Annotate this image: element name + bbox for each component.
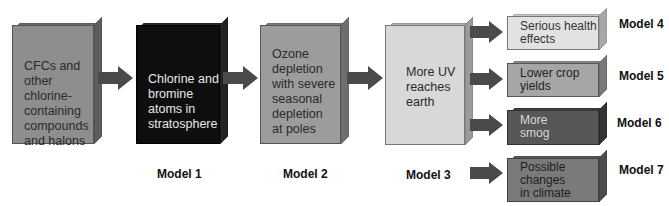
box-side-face [599, 102, 607, 145]
arrow-icon [223, 66, 259, 94]
box-chlorine: Chlorine andbromineatoms instratosphere [136, 17, 228, 144]
arrow-icon [347, 66, 384, 94]
box-side-face [599, 150, 607, 202]
box-top-face [385, 17, 473, 25]
box-text: CFCs andotherchlorine-containingcompound… [24, 59, 89, 149]
box-side-face [599, 55, 607, 97]
box-health: Serious healtheffects [507, 8, 607, 50]
model-1-label: Model 1 [157, 167, 202, 181]
box-text: Chlorine andbromineatoms instratosphere [148, 72, 219, 132]
box-text: Ozonedepletionwith severeseasonaldepleti… [272, 47, 335, 137]
box-text: More UVreachesearth [406, 65, 455, 110]
box-top-face [136, 17, 228, 25]
box-crop: Lower cropyields [507, 55, 607, 97]
model-6-label: Model 6 [617, 116, 662, 130]
arrow-icon [98, 66, 134, 94]
model-3-label: Model 3 [406, 168, 451, 182]
model-7-label: Model 7 [619, 163, 664, 177]
box-top-face [507, 150, 607, 158]
box-top-face [507, 55, 607, 63]
arrow-icon [470, 68, 504, 94]
box-cfcs: CFCs andotherchlorine-containingcompound… [12, 17, 102, 144]
box-top-face [507, 102, 607, 110]
box-uv: More UVreachesearth [385, 17, 473, 145]
box-climate: Possiblechangesin climate [507, 150, 607, 202]
box-side-face [599, 8, 607, 50]
box-text: Lower cropyields [520, 67, 579, 93]
box-text: Serious healtheffects [520, 20, 597, 46]
box-text: Possiblechangesin climate [520, 161, 571, 200]
arrow-icon [470, 114, 504, 140]
box-top-face [12, 17, 102, 25]
model-2-label: Model 2 [283, 167, 328, 181]
model-4-label: Model 4 [619, 17, 664, 31]
box-top-face [260, 17, 349, 25]
box-text: Moresmog [520, 114, 549, 140]
arrow-icon [470, 162, 504, 188]
box-smog: Moresmog [507, 102, 607, 145]
model-5-label: Model 5 [619, 69, 664, 83]
box-top-face [507, 8, 607, 16]
arrow-icon [470, 21, 504, 47]
box-ozone: Ozonedepletionwith severeseasonaldepleti… [260, 17, 349, 144]
